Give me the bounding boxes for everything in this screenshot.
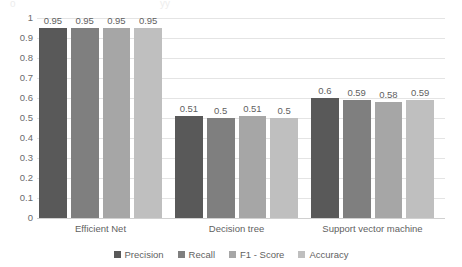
grouped-bar-chart: 10.90.80.70.60.50.40.30.20.10 0.950.950.… — [0, 0, 462, 267]
bar-value-label: 0.5 — [278, 106, 291, 116]
plot-area: 0.950.950.950.950.510.50.510.50.60.590.5… — [37, 18, 445, 218]
bar-value-label: 0.95 — [75, 16, 94, 26]
bar[interactable]: 0.95 — [39, 28, 67, 218]
bar-value-label: 0.51 — [243, 104, 262, 114]
y-axis-tick-label: 0.7 — [20, 73, 33, 83]
bar[interactable]: 0.51 — [175, 116, 203, 218]
legend-swatch-icon — [178, 251, 185, 258]
legend-swatch-icon — [114, 251, 121, 258]
x-axis-category-label: Decision tree — [209, 223, 264, 235]
y-axis-tick-label: 0 — [28, 213, 33, 223]
legend-swatch-icon — [229, 251, 236, 258]
y-axis-tick-label: 0.4 — [20, 133, 33, 143]
bar[interactable]: 0.95 — [103, 28, 131, 218]
bar[interactable]: 0.95 — [134, 28, 162, 218]
bar[interactable]: 0.59 — [406, 100, 434, 218]
legend-swatch-icon — [298, 251, 305, 258]
x-axis-category-label: Efficient Net — [75, 223, 126, 235]
gridline — [37, 218, 445, 219]
bar-group-bars: 0.510.50.510.5 — [175, 18, 298, 218]
bar-group-bars: 0.950.950.950.95 — [39, 18, 162, 218]
y-axis: 10.90.80.70.60.50.40.30.20.10 — [0, 18, 33, 218]
bar-value-label: 0.95 — [44, 16, 63, 26]
bar[interactable]: 0.59 — [343, 100, 371, 218]
y-axis-tick-label: 0.2 — [20, 173, 33, 183]
legend-label: F1 - Score — [240, 249, 284, 260]
legend-label: Precision — [125, 249, 164, 260]
bar-value-label: 0.51 — [180, 104, 199, 114]
y-axis-tick-label: 0.5 — [20, 113, 33, 123]
bar-value-label: 0.58 — [379, 90, 398, 100]
chart-legend: PrecisionRecallF1 - ScoreAccuracy — [0, 249, 462, 260]
legend-label: Recall — [189, 249, 215, 260]
bar[interactable]: 0.95 — [71, 28, 99, 218]
legend-item[interactable]: Accuracy — [298, 249, 348, 260]
bar-value-label: 0.5 — [214, 106, 227, 116]
bar-value-label: 0.6 — [318, 86, 331, 96]
legend-item[interactable]: Precision — [114, 249, 164, 260]
bar-value-label: 0.95 — [107, 16, 126, 26]
bar-value-label: 0.59 — [347, 88, 366, 98]
bar-value-label: 0.95 — [139, 16, 158, 26]
bar-group: 0.510.50.510.5 — [175, 18, 298, 218]
y-axis-tick-label: 0.3 — [20, 153, 33, 163]
x-axis-category-label: Support vector machine — [322, 223, 422, 235]
legend-item[interactable]: Recall — [178, 249, 215, 260]
legend-item[interactable]: F1 - Score — [229, 249, 284, 260]
y-axis-tick-label: 0.6 — [20, 93, 33, 103]
y-axis-tick-label: 1 — [28, 13, 33, 23]
bar-group: 0.60.590.580.59 — [311, 18, 434, 218]
bar[interactable]: 0.5 — [270, 118, 298, 218]
bar[interactable]: 0.6 — [311, 98, 339, 218]
bar-group-bars: 0.60.590.580.59 — [311, 18, 434, 218]
bar[interactable]: 0.58 — [375, 102, 403, 218]
bar-value-label: 0.59 — [411, 88, 430, 98]
legend-label: Accuracy — [309, 249, 348, 260]
bar-group: 0.950.950.950.95 — [39, 18, 162, 218]
y-axis-tick-label: 0.8 — [20, 53, 33, 63]
bar[interactable]: 0.51 — [239, 116, 267, 218]
y-axis-tick-label: 0.9 — [20, 33, 33, 43]
x-axis: Efficient NetDecision treeSupport vector… — [37, 223, 445, 237]
y-axis-tick-label: 0.1 — [20, 193, 33, 203]
bar[interactable]: 0.5 — [207, 118, 235, 218]
